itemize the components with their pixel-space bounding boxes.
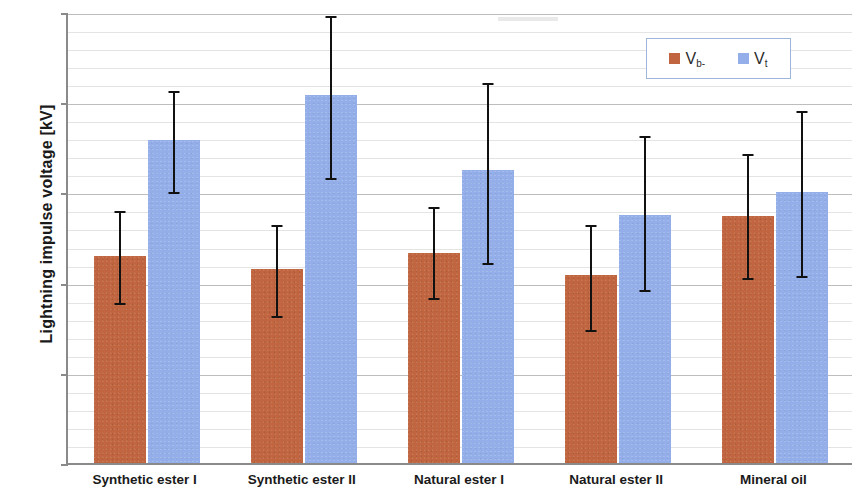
legend-swatch-vt [738, 53, 749, 64]
errorbar-cap-upper [114, 211, 125, 213]
errorbar-line [644, 136, 646, 292]
x-tick-label-4: Mineral oil [683, 472, 857, 487]
y-tick-mark [61, 284, 68, 286]
errorbar-line [590, 225, 592, 331]
errorbar-cap-lower [114, 303, 125, 305]
x-tick-label-2: Natural ester I [369, 472, 549, 487]
errorbar-cap-lower [325, 178, 336, 180]
errorbar-cap-lower [743, 278, 754, 280]
errorbar-cap-upper [168, 91, 179, 93]
errorbar-cap-lower [640, 290, 651, 292]
errorbar-cap-upper [743, 154, 754, 156]
x-tick-label-0: Synthetic ester I [55, 472, 235, 487]
y-tick-mark [61, 103, 68, 105]
legend-label-vb: Vb- [685, 50, 705, 68]
chart-figure: Lightning impulse voltage [kV] 100110120… [0, 0, 857, 493]
legend: Vb- Vt [646, 38, 791, 79]
errorbar-cap-lower [429, 298, 440, 300]
y-tick-mark [61, 374, 68, 376]
legend-swatch-vb [669, 53, 680, 64]
errorbar-line [173, 91, 175, 195]
errorbar-cap-lower [483, 263, 494, 265]
x-tick-label-3: Natural ester II [526, 472, 706, 487]
errorbar-line [330, 16, 332, 180]
scan-artifact [498, 17, 558, 21]
errorbar-cap-lower [797, 276, 808, 278]
errorbar-line [276, 225, 278, 318]
y-axis-title: Lightning impulse voltage [kV] [38, 29, 56, 419]
plot-area: 100110120130140150 [66, 14, 852, 465]
errorbar-cap-upper [483, 83, 494, 85]
errorbar-cap-upper [429, 207, 440, 209]
legend-label-vt: Vt [754, 50, 767, 68]
y-tick-mark [61, 13, 68, 15]
legend-entry-vb: Vb- [669, 50, 705, 68]
x-axis-tick-labels: Synthetic ester ISynthetic ester IINatur… [66, 472, 852, 493]
y-tick-mark [61, 193, 68, 195]
errorbar-cap-lower [271, 316, 282, 318]
errorbar-line [747, 154, 749, 280]
x-tick-label-1: Synthetic ester II [212, 472, 392, 487]
legend-entry-vt: Vt [738, 50, 767, 68]
bars-and-errorbars [68, 14, 852, 463]
errorbar-cap-upper [325, 16, 336, 18]
errorbar-line [801, 111, 803, 278]
errorbar-line [119, 211, 121, 306]
errorbar-cap-upper [271, 225, 282, 227]
errorbar-cap-upper [797, 111, 808, 113]
y-tick-mark [61, 464, 68, 466]
errorbar-line [433, 207, 435, 300]
errorbar-cap-lower [168, 192, 179, 194]
errorbar-cap-upper [640, 136, 651, 138]
errorbar-cap-lower [586, 330, 597, 332]
errorbar-cap-upper [586, 225, 597, 227]
errorbar-line [487, 83, 489, 264]
